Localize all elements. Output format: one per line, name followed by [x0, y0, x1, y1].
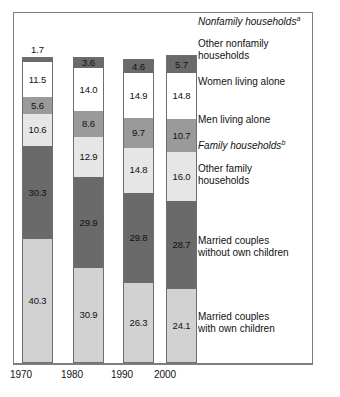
segment-value: 1.7	[31, 45, 44, 55]
segment-value: 14.8	[172, 91, 190, 101]
segment-value: 30.9	[79, 310, 97, 320]
x-tick-label-1980: 1980	[48, 369, 96, 380]
segment-value: 30.3	[28, 188, 46, 198]
segment-value: 12.9	[79, 152, 97, 162]
segment-other-nonfamily-2000: 5.7	[166, 55, 197, 73]
segment-married-without-children-1970: 30.3	[22, 146, 53, 239]
bar-1980: 3.6 14.0 8.6 12.9 29.9 30.9	[73, 57, 104, 363]
segment-other-nonfamily-1990: 4.6	[123, 59, 154, 73]
legend-header-nonfamily: Nonfamily householdsa	[198, 16, 300, 28]
segment-value: 10.6	[28, 125, 46, 135]
segment-value: 40.3	[28, 296, 46, 306]
segment-married-with-children-1980: 30.9	[73, 268, 104, 363]
segment-value: 14.0	[79, 85, 97, 95]
bar-1970: 1.7 11.5 5.6 10.6 30.3 40.3	[22, 57, 53, 363]
segment-married-without-children-2000: 28.7	[166, 201, 197, 289]
segment-value: 9.7	[132, 128, 145, 138]
segment-married-with-children-1970: 40.3	[22, 239, 53, 363]
x-tick-label-1990: 1990	[98, 369, 146, 380]
segment-men-alone-2000: 10.7	[166, 119, 197, 152]
segment-value: 14.9	[129, 91, 147, 101]
segment-married-without-children-1980: 29.9	[73, 177, 104, 269]
segment-women-alone-2000: 14.8	[166, 73, 197, 119]
segment-women-alone-1970: 11.5	[22, 62, 53, 97]
legend-item-other-nonfamily: Other nonfamily households	[198, 38, 269, 61]
legend-item-women-alone: Women living alone	[198, 76, 285, 88]
legend-header-nonfamily-note: a	[296, 15, 300, 22]
legend-header-family: Family householdsb	[198, 140, 285, 152]
segment-men-alone-1990: 9.7	[123, 118, 154, 148]
segment-value: 16.0	[172, 172, 190, 182]
legend-item-married-without-children: Married couples without own children	[198, 235, 289, 258]
segment-value: 14.8	[129, 165, 147, 175]
segment-value: 11.5	[29, 75, 46, 85]
bar-1990: 4.6 14.9 9.7 14.8 29.8 26.3	[123, 59, 154, 363]
segment-value: 29.9	[79, 218, 97, 228]
chart-frame: 1.7 11.5 5.6 10.6 30.3 40.3 3.6	[13, 12, 313, 364]
legend-header-family-note: b	[281, 139, 285, 146]
segment-value: 29.8	[129, 233, 147, 243]
segment-value: 8.6	[82, 119, 95, 129]
x-axis-line	[13, 364, 313, 365]
x-tick-label-1970: 1970	[0, 369, 45, 380]
segment-men-alone-1980: 8.6	[73, 111, 104, 137]
segment-value: 10.7	[172, 131, 190, 141]
segment-married-with-children-1990: 26.3	[123, 283, 154, 363]
legend-item-married-with-children: Married couples with own children	[198, 311, 275, 334]
segment-value: 4.6	[132, 62, 145, 72]
segment-value: 5.7	[175, 60, 188, 70]
plot-area: 1.7 11.5 5.6 10.6 30.3 40.3 3.6	[14, 13, 312, 363]
segment-value: 24.1	[172, 321, 190, 331]
segment-other-nonfamily-1980: 3.6	[73, 57, 104, 68]
segment-other-family-1980: 12.9	[73, 137, 104, 177]
segment-women-alone-1980: 14.0	[73, 68, 104, 111]
segment-women-alone-1990: 14.9	[123, 73, 154, 118]
segment-value: 28.7	[172, 240, 190, 250]
segment-value: 26.3	[129, 318, 147, 328]
segment-other-family-2000: 16.0	[166, 152, 197, 201]
segment-married-without-children-1990: 29.8	[123, 193, 154, 284]
legend-header-nonfamily-label: Nonfamily households	[198, 16, 296, 27]
segment-men-alone-1970: 5.6	[22, 97, 53, 114]
x-tick-label-2000: 2000	[141, 369, 189, 380]
segment-married-with-children-2000: 24.1	[166, 289, 197, 363]
legend-item-men-alone: Men living alone	[198, 114, 270, 126]
segment-value: 5.6	[31, 101, 44, 111]
legend-header-family-label: Family households	[198, 140, 281, 151]
legend-item-other-family: Other family households	[198, 163, 252, 186]
segment-other-family-1990: 14.8	[123, 148, 154, 193]
segment-other-family-1970: 10.6	[22, 114, 53, 146]
bar-2000: 5.7 14.8 10.7 16.0 28.7 24.1	[166, 55, 197, 363]
segment-value: 3.6	[82, 58, 95, 68]
